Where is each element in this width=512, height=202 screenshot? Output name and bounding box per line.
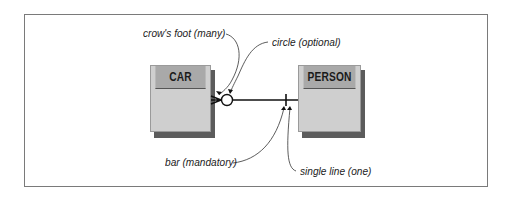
arrowhead-single-line [287,106,292,110]
relationship-lines [0,0,512,202]
label-bar: bar (mandatory) [165,156,237,168]
leader-circle [230,42,268,93]
arrowhead-circle [228,89,233,94]
leader-single-line [288,108,296,171]
relationship-connector [211,94,298,106]
label-single-line: single line (one) [300,165,371,177]
leader-crows-foot [219,34,239,95]
label-circle: circle (optional) [272,36,341,48]
leader-bar [233,108,284,163]
arrowhead-bar [281,106,286,110]
crows-foot-icon [211,96,221,104]
optional-circle-icon [222,95,233,106]
label-crows-foot: crow's foot (many) [143,27,225,39]
